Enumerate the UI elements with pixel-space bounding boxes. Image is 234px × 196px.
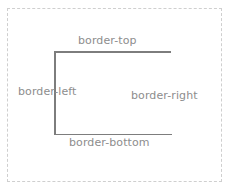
box-edge-bottom xyxy=(54,134,172,136)
diagram-canvas: border-top border-left border-right bord… xyxy=(0,0,234,196)
label-border-right: border-right xyxy=(131,89,198,102)
label-border-left: border-left xyxy=(18,85,77,98)
label-border-bottom: border-bottom xyxy=(69,136,150,149)
box-edge-top xyxy=(54,51,172,53)
label-border-top: border-top xyxy=(78,34,137,47)
